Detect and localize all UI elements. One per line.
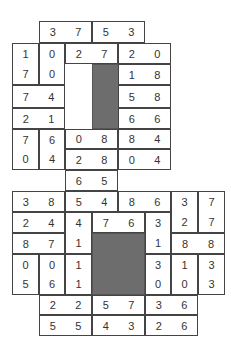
domino-half-value: 4: [39, 213, 65, 232]
domino-tile[interactable]: 38: [12, 191, 65, 212]
domino-half-value: 3: [146, 255, 170, 275]
domino-tile[interactable]: 70: [12, 129, 39, 170]
domino-tile[interactable]: 74: [12, 85, 65, 108]
domino-half-value: 1: [172, 255, 197, 275]
domino-half-value: 7: [119, 296, 145, 314]
domino-tile[interactable]: 88: [171, 233, 225, 254]
domino-tile[interactable]: 22: [39, 295, 92, 315]
domino-half-value: 2: [66, 150, 92, 169]
domino-half-value: 2: [172, 212, 197, 232]
domino-half-value: 5: [93, 296, 119, 314]
domino-tile[interactable]: 05: [12, 254, 39, 295]
domino-half-value: 0: [40, 64, 64, 84]
domino-half-value: 7: [199, 212, 224, 232]
domino-tile[interactable]: 64: [39, 129, 65, 170]
domino-tile[interactable]: 20: [118, 43, 171, 64]
domino-half-value: 5: [119, 86, 145, 107]
domino-tile[interactable]: 36: [145, 295, 198, 315]
domino-half-value: 0: [66, 130, 92, 148]
domino-tile[interactable]: 55: [39, 315, 92, 336]
domino-tile[interactable]: 31: [145, 212, 171, 254]
domino-half-value: 7: [13, 130, 38, 150]
domino-tile[interactable]: 84: [118, 129, 171, 149]
domino-tile[interactable]: 53: [92, 21, 145, 43]
domino-tile[interactable]: 65: [65, 170, 118, 191]
domino-half-value: 4: [92, 192, 118, 211]
domino-tile[interactable]: 57: [92, 295, 145, 315]
blocked-area: [92, 233, 145, 295]
domino-tile[interactable]: 26: [145, 315, 198, 336]
domino-tile[interactable]: 10: [171, 254, 198, 295]
domino-half-value: 2: [66, 296, 92, 314]
domino-half-value: 3: [199, 275, 224, 295]
domino-half-value: 5: [13, 275, 38, 295]
domino-half-value: 8: [92, 150, 118, 169]
domino-half-value: 7: [66, 22, 92, 42]
domino-half-value: 4: [39, 86, 65, 107]
domino-board: 3753170027201874582166706408842804653854…: [0, 0, 231, 355]
domino-tile[interactable]: 11: [65, 254, 92, 295]
domino-half-value: 0: [40, 255, 64, 275]
domino-tile[interactable]: 33: [198, 254, 225, 295]
domino-half-value: 4: [145, 130, 171, 148]
domino-half-value: 1: [39, 109, 65, 128]
domino-tile[interactable]: 37: [39, 21, 92, 43]
domino-tile[interactable]: 08: [65, 129, 118, 149]
domino-half-value: 6: [145, 192, 171, 211]
domino-half-value: 0: [13, 255, 38, 275]
domino-tile[interactable]: 77: [198, 191, 225, 233]
domino-half-value: 0: [145, 44, 171, 63]
domino-half-value: 7: [13, 64, 38, 84]
domino-half-value: 4: [145, 150, 171, 169]
domino-tile[interactable]: 28: [65, 149, 118, 170]
domino-half-value: 6: [145, 109, 171, 128]
domino-half-value: 3: [199, 255, 224, 275]
domino-tile[interactable]: 24: [12, 212, 65, 233]
domino-half-value: 0: [13, 150, 38, 170]
domino-half-value: 7: [39, 234, 65, 253]
domino-half-value: 2: [66, 44, 92, 63]
domino-tile[interactable]: 43: [92, 315, 145, 336]
domino-half-value: 6: [119, 109, 145, 128]
domino-half-value: 4: [93, 316, 119, 335]
domino-half-value: 7: [13, 86, 39, 107]
domino-half-value: 7: [199, 192, 224, 212]
domino-half-value: 8: [172, 234, 198, 253]
domino-half-value: 0: [172, 275, 197, 295]
domino-half-value: 7: [93, 213, 119, 232]
domino-half-value: 0: [119, 150, 145, 169]
domino-tile[interactable]: 58: [118, 85, 171, 108]
domino-tile[interactable]: 17: [12, 43, 39, 85]
domino-half-value: 3: [172, 192, 197, 212]
domino-half-value: 8: [39, 192, 65, 211]
domino-half-value: 3: [146, 213, 170, 233]
domino-tile[interactable]: 54: [65, 191, 118, 212]
domino-half-value: 6: [172, 296, 198, 314]
domino-half-value: 8: [13, 234, 39, 253]
domino-tile[interactable]: 76: [92, 212, 145, 233]
domino-tile[interactable]: 66: [118, 108, 171, 129]
domino-tile[interactable]: 30: [145, 254, 171, 295]
domino-tile[interactable]: 00: [39, 43, 65, 85]
domino-tile[interactable]: 41: [65, 212, 92, 254]
domino-tile[interactable]: 06: [39, 254, 65, 295]
domino-half-value: 8: [119, 130, 145, 148]
domino-tile[interactable]: 18: [118, 64, 171, 85]
domino-half-value: 5: [66, 316, 92, 335]
domino-half-value: 0: [40, 44, 64, 64]
domino-tile[interactable]: 32: [171, 191, 198, 233]
domino-tile[interactable]: 87: [12, 233, 65, 254]
domino-half-value: 5: [93, 22, 119, 42]
domino-half-value: 6: [66, 171, 92, 190]
domino-half-value: 8: [92, 130, 118, 148]
domino-half-value: 8: [145, 65, 171, 84]
domino-half-value: 1: [66, 275, 91, 295]
domino-tile[interactable]: 27: [65, 43, 118, 64]
domino-half-value: 1: [66, 233, 91, 253]
domino-half-value: 1: [66, 255, 91, 275]
domino-half-value: 5: [66, 192, 92, 211]
domino-tile[interactable]: 04: [118, 149, 171, 170]
domino-tile[interactable]: 86: [118, 191, 171, 212]
domino-tile[interactable]: 21: [12, 108, 65, 129]
domino-half-value: 7: [92, 44, 118, 63]
